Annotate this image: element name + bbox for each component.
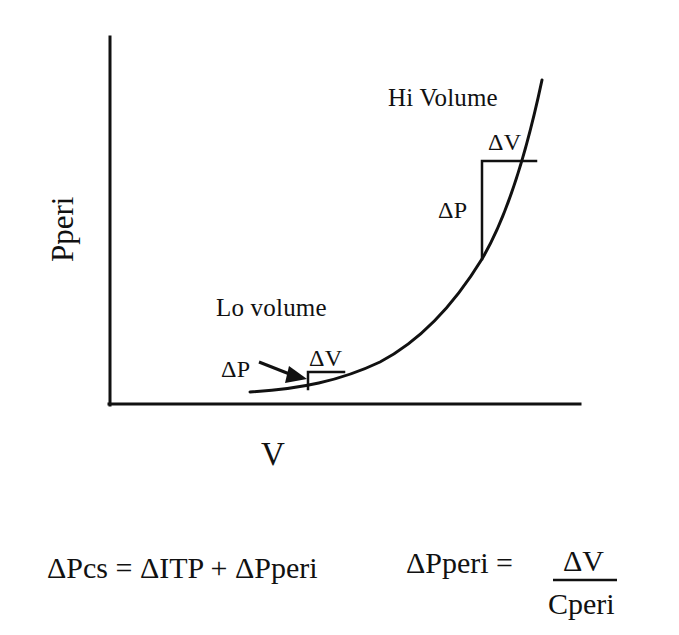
delta-p-pointer-arrow-head [285,366,307,383]
equation-left: ΔPcs = ΔITP + ΔPperi [47,551,318,584]
figure-svg-canvas: Hi Volume Lo volume ΔV ΔP ΔV ΔP Pperi V … [0,0,679,635]
lo-volume-delta-v-label: ΔV [309,345,343,371]
compliance-curve [250,80,542,392]
hi-volume-label: Hi Volume [388,84,498,111]
equation-right-numerator: ΔV [563,544,604,577]
lo-volume-label: Lo volume [216,294,327,321]
delta-p-pointer-arrow-shaft [259,362,292,375]
x-axis-label: V [261,436,285,472]
hi-volume-delta-v-label: ΔV [488,129,522,155]
lo-volume-delta-p-label: ΔP [221,356,250,382]
pericardial-compliance-figure: Hi Volume Lo volume ΔV ΔP ΔV ΔP Pperi V … [0,0,679,635]
equation-right-lhs: ΔPperi = [406,546,513,579]
y-axis-label: Pperi [45,196,80,262]
hi-volume-delta-p-label: ΔP [438,197,467,223]
equation-right-denominator: Cperi [548,587,615,620]
